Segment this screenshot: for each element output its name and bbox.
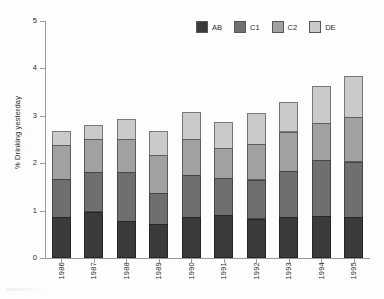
x-axis-label-text: 1993: [284, 262, 293, 280]
bar-segment-de[interactable]: [247, 113, 266, 145]
legend-item-de[interactable]: DE: [309, 21, 335, 33]
bar-segment-c2[interactable]: [84, 139, 103, 173]
stacked-bar-chart: % Drinking yesterday 012345 198619871988…: [0, 0, 384, 299]
bar-segment-ab[interactable]: [344, 217, 363, 258]
x-axis-label-text: 1986: [57, 262, 66, 280]
scan-artifact: [6, 288, 46, 291]
bar-segment-ab[interactable]: [117, 221, 136, 258]
bar-segment-ab[interactable]: [247, 219, 266, 258]
x-axis-label-text: 1988: [122, 262, 131, 280]
x-axis-label-text: 1987: [89, 262, 98, 280]
bar-segment-de[interactable]: [52, 131, 71, 146]
x-axis-label: 1994: [312, 262, 331, 296]
x-axis-label: 1986: [52, 262, 71, 296]
bar-segment-c2[interactable]: [344, 117, 363, 162]
x-axis-label-text: 1994: [317, 262, 326, 280]
bar-segment-c2[interactable]: [117, 139, 136, 173]
x-axis-label-text: 1990: [187, 262, 196, 280]
bar-segment-de[interactable]: [312, 86, 331, 124]
x-axis-label: 1988: [117, 262, 136, 296]
legend-item-c2[interactable]: C2: [272, 21, 298, 33]
bars-layer: [45, 21, 370, 258]
legend-swatch-ab: [196, 21, 208, 33]
bar-stack[interactable]: [214, 123, 233, 258]
plot-area: 012345: [45, 21, 370, 258]
y-tick-label: 5: [33, 16, 37, 25]
bar-segment-ab[interactable]: [149, 224, 168, 258]
x-axis-label: 1989: [149, 262, 168, 296]
bar-stack[interactable]: [117, 120, 136, 258]
x-axis-label-text: 1991: [219, 262, 228, 280]
legend-swatch-c2: [272, 21, 284, 33]
bar-segment-ab[interactable]: [279, 217, 298, 258]
bar-segment-c1[interactable]: [214, 178, 233, 215]
x-axis-label: 1995: [344, 262, 363, 296]
legend-label: AB: [212, 23, 222, 32]
bar-segment-c1[interactable]: [149, 193, 168, 225]
bar-segment-ab[interactable]: [182, 217, 201, 258]
bar-segment-c1[interactable]: [117, 172, 136, 222]
legend-swatch-c1: [234, 21, 246, 33]
bar-segment-c2[interactable]: [149, 155, 168, 193]
x-axis-label: 1991: [214, 262, 233, 296]
bar-segment-c1[interactable]: [52, 179, 71, 218]
bar-stack[interactable]: [84, 126, 103, 258]
bar-stack[interactable]: [247, 114, 266, 258]
x-axis-label: 1992: [247, 262, 266, 296]
x-axis-labels: 1986198719881989199019911992199319941995: [45, 262, 370, 298]
bar-segment-c2[interactable]: [312, 123, 331, 161]
legend-label: C1: [250, 23, 260, 32]
y-axis-title: % Drinking yesterday: [9, 0, 25, 265]
bar-segment-c1[interactable]: [84, 172, 103, 212]
x-axis-label-text: 1995: [349, 262, 358, 280]
bar-segment-c1[interactable]: [247, 180, 266, 220]
x-axis-label-text: 1992: [252, 262, 261, 280]
bar-stack[interactable]: [182, 112, 201, 258]
bar-segment-ab[interactable]: [84, 212, 103, 258]
y-tick-label: 3: [33, 111, 37, 120]
y-tick-label: 1: [33, 206, 37, 215]
bar-segment-ab[interactable]: [52, 217, 71, 258]
legend-item-c1[interactable]: C1: [234, 21, 260, 33]
bar-stack[interactable]: [344, 76, 363, 258]
x-axis-label: 1987: [84, 262, 103, 296]
bar-segment-c1[interactable]: [344, 162, 363, 218]
bar-segment-de[interactable]: [344, 76, 363, 119]
bar-segment-c2[interactable]: [182, 139, 201, 176]
bar-segment-de[interactable]: [149, 131, 168, 156]
x-axis-label: 1993: [279, 262, 298, 296]
chart-legend: ABC1C2DE: [196, 21, 336, 33]
bar-segment-de[interactable]: [279, 102, 298, 133]
bar-segment-c2[interactable]: [247, 144, 266, 180]
bar-stack[interactable]: [279, 102, 298, 258]
bar-segment-c2[interactable]: [214, 148, 233, 179]
bar-segment-c1[interactable]: [182, 175, 201, 218]
bar-segment-ab[interactable]: [312, 216, 331, 258]
bar-segment-de[interactable]: [182, 112, 201, 140]
x-axis-label-text: 1989: [154, 262, 163, 280]
y-axis-title-label: % Drinking yesterday: [13, 96, 22, 169]
y-tick: 0: [40, 258, 45, 259]
y-tick-label: 2: [33, 158, 37, 167]
bar-segment-de[interactable]: [214, 122, 233, 148]
x-axis-label: 1990: [182, 262, 201, 296]
legend-label: C2: [288, 23, 298, 32]
bar-segment-c1[interactable]: [279, 171, 298, 218]
legend-label: DE: [325, 23, 335, 32]
bar-stack[interactable]: [149, 132, 168, 258]
bar-stack[interactable]: [312, 86, 331, 258]
y-tick-label: 0: [33, 253, 37, 262]
bar-segment-c2[interactable]: [52, 145, 71, 179]
bar-segment-ab[interactable]: [214, 215, 233, 258]
bar-segment-de[interactable]: [84, 125, 103, 140]
bar-stack[interactable]: [52, 132, 71, 258]
bar-segment-c2[interactable]: [279, 132, 298, 172]
legend-item-ab[interactable]: AB: [196, 21, 222, 33]
legend-swatch-de: [309, 21, 321, 33]
bar-segment-c1[interactable]: [312, 160, 331, 216]
bar-segment-de[interactable]: [117, 119, 136, 139]
y-tick-label: 4: [33, 63, 37, 72]
